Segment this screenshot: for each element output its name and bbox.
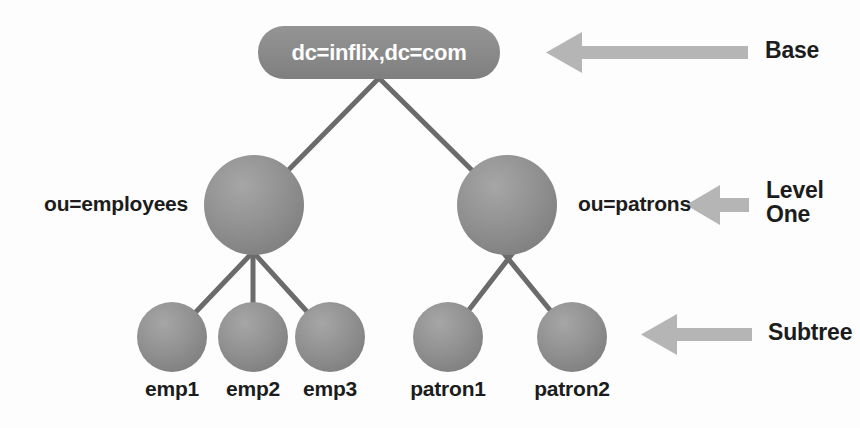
node-patrons[interactable] bbox=[457, 155, 557, 255]
ldap-tree-diagram: dc=inflix,dc=com ou=employees ou=patrons… bbox=[0, 0, 860, 428]
node-label-emp3: emp3 bbox=[290, 378, 370, 401]
node-patron1[interactable] bbox=[413, 302, 483, 372]
arrow-left-icon-subtree bbox=[641, 314, 752, 355]
node-label-patron1: patron1 bbox=[393, 378, 503, 401]
node-label-patrons: ou=patrons bbox=[578, 193, 691, 216]
node-label-employees: ou=employees bbox=[44, 193, 188, 216]
node-label-emp1: emp1 bbox=[132, 378, 212, 401]
node-employees[interactable] bbox=[204, 155, 304, 255]
annotation-label-level-one: Level One bbox=[766, 178, 824, 226]
node-emp1[interactable] bbox=[137, 302, 207, 372]
arrow-left-icon-level-one bbox=[686, 185, 749, 225]
annotation-label-level-one-line1: Level bbox=[766, 178, 824, 202]
root-node-label: dc=inflix,dc=com bbox=[258, 40, 500, 66]
annotation-label-level-one-line2: One bbox=[766, 202, 824, 226]
node-emp3[interactable] bbox=[295, 302, 365, 372]
node-label-patron2: patron2 bbox=[517, 378, 627, 401]
node-patron2[interactable] bbox=[537, 302, 607, 372]
arrow-left-icon-base bbox=[546, 32, 748, 73]
annotation-label-base: Base bbox=[765, 38, 819, 62]
node-label-emp2: emp2 bbox=[213, 378, 293, 401]
annotation-label-subtree: Subtree bbox=[768, 320, 852, 344]
node-emp2[interactable] bbox=[218, 302, 288, 372]
